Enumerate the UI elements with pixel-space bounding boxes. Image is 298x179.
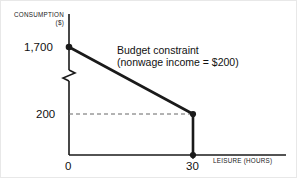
x-tick-label-30: 30 — [186, 160, 199, 172]
y-axis-title: CONSUMPTION ($) — [14, 12, 64, 26]
data-point-200 — [190, 111, 196, 117]
y-axis-title-text: CONSUMPTION — [14, 11, 64, 18]
annotation-line-2: (nonwage income = $200) — [117, 57, 239, 68]
y-axis-unit-text: ($) — [14, 20, 64, 27]
budget-constraint-annotation: Budget constraint (nonwage income = $200… — [117, 45, 239, 68]
x-axis-title: LEISURE (HOURS) — [213, 158, 272, 165]
y-axis-break-icon — [63, 70, 75, 81]
budget-constraint-figure: CONSUMPTION ($) LEISURE (HOURS) 1,700 20… — [0, 0, 298, 179]
chart-canvas — [0, 0, 298, 179]
annotation-line-1: Budget constraint — [117, 44, 199, 56]
y-tick-label-200: 200 — [36, 108, 55, 120]
origin-label: 0 — [65, 160, 71, 172]
y-tick-label-1700: 1,700 — [24, 41, 53, 53]
data-point-1700 — [66, 44, 73, 51]
